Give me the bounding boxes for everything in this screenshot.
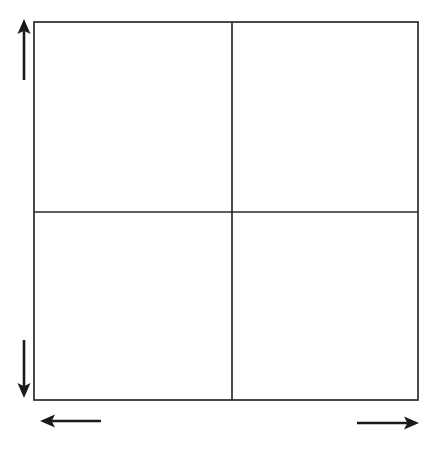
quadrant-top-right[interactable] xyxy=(233,23,417,211)
quadrant-bottom-left[interactable] xyxy=(35,213,231,399)
quadrant-top-left[interactable] xyxy=(35,23,231,211)
diagram-canvas xyxy=(0,0,423,455)
quadrant-bottom-right[interactable] xyxy=(233,213,417,399)
quadrant-diagram xyxy=(0,0,423,455)
